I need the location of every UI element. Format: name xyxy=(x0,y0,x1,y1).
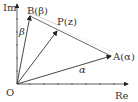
point-p-label: P(z) xyxy=(57,16,77,27)
vector-op xyxy=(17,31,57,84)
vector-oa xyxy=(17,56,111,84)
complex-plane-diagram: Im Re O B(β) P(z) A(α) β α xyxy=(0,0,138,102)
vector-oa-label: α xyxy=(79,64,86,75)
re-axis-label: Re xyxy=(115,90,129,101)
point-b-label: B(β) xyxy=(27,5,48,16)
origin-label: O xyxy=(6,87,14,98)
im-axis-label: Im xyxy=(3,2,17,13)
vector-ob-label: β xyxy=(18,26,25,37)
point-a-label: A(α) xyxy=(112,51,135,62)
